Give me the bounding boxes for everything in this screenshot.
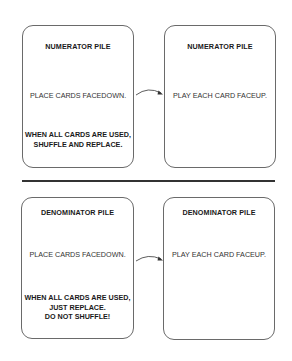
arrow-icon bbox=[134, 250, 166, 266]
note-line: WHEN ALL CARDS ARE USED, bbox=[23, 130, 133, 140]
denominator-faceup-card: DENOMINATOR PILE PLAY EACH CARD FACEUP. bbox=[163, 197, 275, 340]
card-instruction: PLAY EACH CARD FACEUP. bbox=[165, 91, 275, 100]
note-line: WHEN ALL CARDS ARE USED, bbox=[22, 293, 133, 303]
numerator-faceup-card: NUMERATOR PILE PLAY EACH CARD FACEUP. bbox=[164, 25, 276, 168]
card-title: NUMERATOR PILE bbox=[165, 42, 275, 51]
card-title: DENOMINATOR PILE bbox=[164, 208, 274, 217]
note-line: SHUFFLE AND REPLACE. bbox=[23, 140, 133, 150]
note-line: DO NOT SHUFFLE! bbox=[22, 312, 133, 322]
denominator-facedown-card: DENOMINATOR PILE PLACE CARDS FACEDOWN. W… bbox=[21, 197, 134, 339]
card-title: DENOMINATOR PILE bbox=[22, 208, 133, 217]
card-instruction: PLAY EACH CARD FACEUP. bbox=[164, 250, 274, 259]
card-instruction: PLACE CARDS FACEDOWN. bbox=[23, 91, 133, 100]
card-note: WHEN ALL CARDS ARE USED, JUST REPLACE. D… bbox=[22, 293, 133, 322]
arrow-icon bbox=[134, 84, 166, 100]
section-divider bbox=[22, 180, 275, 182]
card-instruction: PLACE CARDS FACEDOWN. bbox=[22, 250, 133, 259]
numerator-facedown-card: NUMERATOR PILE PLACE CARDS FACEDOWN. WHE… bbox=[22, 25, 134, 168]
card-title: NUMERATOR PILE bbox=[23, 42, 133, 51]
card-note: WHEN ALL CARDS ARE USED, SHUFFLE AND REP… bbox=[23, 130, 133, 149]
note-line: JUST REPLACE. bbox=[22, 303, 133, 313]
